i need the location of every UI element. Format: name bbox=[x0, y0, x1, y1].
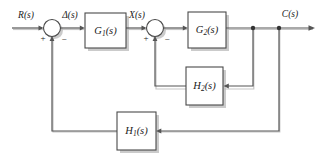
block-h1[interactable]: H1(s) bbox=[117, 112, 156, 150]
block-diagram-svg: G1(s) G2(s) H2(s) H1(s) + − + − R(s) bbox=[0, 0, 328, 158]
block-diagram-canvas: G1(s) G2(s) H2(s) H1(s) + − + − R(s) bbox=[0, 0, 328, 158]
signal-label-output: C(s) bbox=[282, 9, 298, 20]
wire-shadow-group bbox=[13, 30, 313, 133]
wire-h1-to-sum1 bbox=[52, 38, 117, 132]
summing-junction-1-circle[interactable] bbox=[44, 20, 61, 37]
wire-h2-to-sum2 bbox=[155, 38, 186, 87]
branch-node-h1-dot bbox=[277, 26, 281, 30]
sum2-minus-sign: − bbox=[164, 34, 169, 44]
sum1-minus-sign: − bbox=[61, 34, 66, 44]
sum1-plus-sign: + bbox=[40, 33, 45, 43]
sum2-plus-sign: + bbox=[143, 33, 148, 43]
summing-junction-2-circle[interactable] bbox=[147, 20, 164, 37]
block-g1[interactable]: G1(s) bbox=[85, 13, 126, 48]
signal-label-input: R(s) bbox=[17, 10, 34, 21]
signal-label-error: Δ(s) bbox=[61, 10, 78, 21]
block-h1-label: H1(s) bbox=[124, 125, 148, 138]
block-g1-label: G1(s) bbox=[94, 25, 117, 38]
block-h2[interactable]: H2(s) bbox=[186, 67, 223, 105]
branch-node-h2-dot bbox=[251, 26, 255, 30]
block-h2-label: H2(s) bbox=[192, 80, 216, 93]
wire-branch-to-h2 bbox=[226, 28, 253, 86]
block-g2[interactable]: G2(s) bbox=[188, 12, 226, 48]
signal-label-intermediate: X(s) bbox=[128, 10, 145, 21]
block-g2-label: G2(s) bbox=[196, 24, 219, 37]
